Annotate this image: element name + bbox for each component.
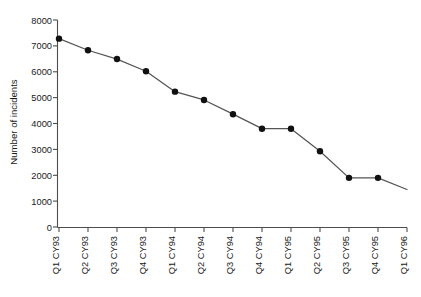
data-point xyxy=(143,68,149,74)
y-tick-label: 8000 xyxy=(31,16,52,26)
data-point xyxy=(56,35,62,41)
y-axis xyxy=(53,20,58,228)
y-tick-label: 4000 xyxy=(31,119,52,129)
x-tick-label: Q2 CY95 xyxy=(312,236,322,274)
data-series-incidents xyxy=(56,35,407,189)
x-tick-label: Q3 CY94 xyxy=(225,236,235,274)
y-axis-title: Number of incidents xyxy=(8,79,19,165)
y-tick-labels: 8000 7000 6000 5000 4000 3000 2000 1000 … xyxy=(31,16,52,233)
data-point xyxy=(201,97,207,103)
x-tick-label: Q1 CY95 xyxy=(283,236,293,274)
data-point xyxy=(317,148,323,154)
y-tick-label: 1000 xyxy=(31,197,52,207)
y-tick-label: 7000 xyxy=(31,41,52,51)
x-tick-label: Q2 CY94 xyxy=(196,236,206,274)
y-tick-label: 5000 xyxy=(31,93,52,103)
x-tick-label: Q1 CY93 xyxy=(51,236,61,274)
x-tick-label: Q2 CY93 xyxy=(80,236,90,274)
y-tick-label: 3000 xyxy=(31,145,52,155)
data-point xyxy=(230,111,236,117)
data-point xyxy=(346,175,352,181)
x-tick-labels: Q1 CY93 Q2 CY93 Q3 CY93 Q4 CY93 Q1 CY94 … xyxy=(51,236,409,274)
y-tick-label: 6000 xyxy=(31,67,52,77)
line-chart: Number of incidents 8000 7000 6000 5000 … xyxy=(0,0,421,297)
data-point xyxy=(114,56,120,62)
x-tick-label: Q1 CY96 xyxy=(399,236,409,274)
x-tick-label: Q4 CY93 xyxy=(138,236,148,274)
data-point xyxy=(85,47,91,53)
x-tick-label: Q4 CY94 xyxy=(254,236,264,274)
data-point xyxy=(375,175,381,181)
x-tick-label: Q4 CY95 xyxy=(370,236,380,274)
x-axis xyxy=(58,228,408,233)
y-tick-label: 0 xyxy=(47,223,52,233)
series-markers xyxy=(56,35,381,181)
x-tick-label: Q1 CY94 xyxy=(167,236,177,274)
y-axis-title-text: Number of incidents xyxy=(8,79,19,165)
data-point xyxy=(259,125,265,131)
y-tick-label: 2000 xyxy=(31,171,52,181)
x-tick-label: Q3 CY93 xyxy=(109,236,119,274)
figure-container: Number of incidents 8000 7000 6000 5000 … xyxy=(0,0,421,297)
data-point xyxy=(172,88,178,94)
x-tick-label: Q3 CY95 xyxy=(341,236,351,274)
data-point xyxy=(288,125,294,131)
